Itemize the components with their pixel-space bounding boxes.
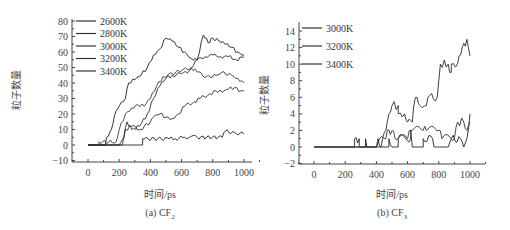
legend-label: 3400K <box>326 59 354 70</box>
x-tick-label: 200 <box>112 167 127 178</box>
legend-label: 2800K <box>100 28 128 39</box>
x-axis-title: 时间/ps <box>144 188 176 200</box>
y-tick-label: 12 <box>285 42 295 53</box>
y-tick-label: 2 <box>290 125 295 136</box>
chart-caption: (a) CF2 <box>145 207 175 221</box>
figure-canvas: −100102030405060708002004006008001000260… <box>0 0 510 230</box>
y-axis-title: 粒子数量 <box>258 75 270 115</box>
series-2600k <box>88 130 244 145</box>
x-tick-label: 0 <box>86 167 91 178</box>
y-tick-label: 70 <box>58 31 68 42</box>
y-tick-label: −2 <box>284 158 295 169</box>
y-tick-label: 20 <box>58 109 68 120</box>
x-tick-label: 800 <box>431 169 446 180</box>
x-axis-title: 时间/ps <box>376 188 408 200</box>
x-tick-label: 0 <box>312 169 317 180</box>
y-tick-label: 50 <box>58 62 68 73</box>
chart-caption: (b) CF3 <box>377 207 407 221</box>
series-3200k <box>88 68 244 146</box>
y-tick-label: 10 <box>58 124 68 135</box>
x-tick-label: 200 <box>338 169 353 180</box>
legend-label: 2600K <box>100 16 128 27</box>
x-tick-label: 800 <box>205 167 220 178</box>
y-tick-label: 40 <box>58 78 68 89</box>
x-tick-label: 1000 <box>234 167 254 178</box>
y-tick-label: 30 <box>58 93 68 104</box>
y-axis-title: 粒子数量 <box>10 70 22 110</box>
y-tick-label: 10 <box>285 59 295 70</box>
legend-label: 3200K <box>326 41 354 52</box>
x-tick-label: 600 <box>400 169 415 180</box>
y-tick-label: 6 <box>290 92 295 103</box>
y-tick-label: −10 <box>52 155 68 166</box>
x-tick-label: 400 <box>369 169 384 180</box>
y-tick-label: 4 <box>290 108 295 119</box>
chart-cf3: −202468101214020040060080010003000K3200K… <box>258 22 486 221</box>
chart-cf2: −100102030405060708002004006008001000260… <box>10 16 260 222</box>
y-tick-label: 80 <box>58 16 68 27</box>
legend-label: 3000K <box>326 23 354 34</box>
legend-label: 3200K <box>100 53 128 64</box>
y-tick-label: 0 <box>290 142 295 153</box>
y-tick-label: 0 <box>63 140 68 151</box>
y-tick-label: 60 <box>58 47 68 58</box>
series-3200k <box>314 118 470 147</box>
legend-label: 3400K <box>100 66 128 77</box>
legend-label: 3000K <box>100 41 128 52</box>
x-tick-label: 600 <box>174 167 189 178</box>
y-tick-label: 14 <box>285 26 295 37</box>
x-tick-label: 400 <box>143 167 158 178</box>
x-tick-label: 1000 <box>460 169 480 180</box>
y-tick-label: 8 <box>290 75 295 86</box>
